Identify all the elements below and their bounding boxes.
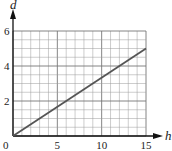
y-tick-label: 2 [4, 95, 10, 107]
x-axis-label: h [165, 128, 172, 143]
tick-labels: 051015246 [3, 25, 152, 151]
y-axis-label: d [10, 0, 17, 12]
grid [13, 31, 146, 136]
x-tick-label: 0 [3, 139, 9, 151]
x-axis-arrow-icon [153, 133, 163, 139]
x-tick-label: 5 [55, 139, 61, 151]
y-tick-label: 4 [4, 60, 10, 72]
axes [10, 9, 163, 139]
y-tick-label: 6 [4, 25, 10, 37]
x-tick-label: 10 [96, 139, 108, 151]
x-tick-label: 15 [141, 139, 153, 151]
line-chart: d h 051015246 [0, 0, 172, 151]
